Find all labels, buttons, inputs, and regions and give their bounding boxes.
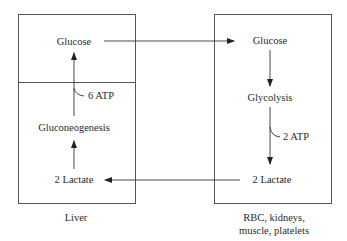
tissues-glycolysis-label: Glycolysis bbox=[248, 92, 293, 104]
tissues-glucose-label: Glucose bbox=[253, 35, 287, 47]
tissues-caption-line2: muscle, platelets bbox=[239, 224, 309, 237]
tissues-caption-line1: RBC, kidneys, bbox=[243, 211, 305, 224]
tissues-atp-label: 2 ATP bbox=[283, 131, 309, 143]
liver-caption: Liver bbox=[65, 211, 88, 224]
liver-gluconeogenesis-label: Gluconeogenesis bbox=[38, 122, 110, 134]
liver-lactate-label: 2 Lactate bbox=[55, 174, 94, 186]
tissues-lactate-label: 2 Lactate bbox=[253, 174, 292, 186]
diagram-arrows bbox=[0, 0, 347, 241]
liver-glucose-label: Glucose bbox=[57, 36, 91, 48]
liver-atp-label: 6 ATP bbox=[88, 90, 114, 102]
